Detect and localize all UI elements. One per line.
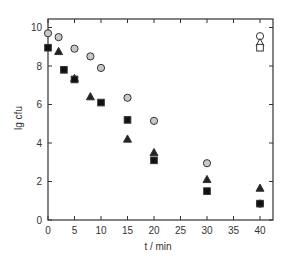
x-tick-label: 35 — [228, 225, 240, 236]
square-marker — [151, 157, 158, 164]
circle-marker — [71, 45, 78, 52]
x-axis-ticks: 0510152025303540 — [45, 19, 266, 236]
circle-marker — [124, 94, 131, 101]
y-tick-label: 0 — [36, 215, 42, 226]
y-tick-label: 2 — [36, 176, 42, 187]
plot-frame — [48, 19, 273, 220]
circle-marker — [87, 53, 94, 60]
plot-border — [48, 19, 273, 220]
square-marker — [257, 200, 264, 207]
y-tick-label: 10 — [31, 22, 43, 33]
circle-marker — [55, 34, 62, 41]
x-axis-label: t / min — [144, 241, 171, 252]
x-tick-label: 30 — [201, 225, 213, 236]
y-tick-label: 4 — [36, 138, 42, 149]
x-tick-label: 15 — [122, 225, 134, 236]
triangle-marker — [203, 175, 211, 182]
square-marker — [98, 99, 105, 106]
circle-marker — [150, 117, 157, 124]
y-tick-label: 6 — [36, 99, 42, 110]
x-tick-label: 10 — [95, 225, 107, 236]
circle-marker — [44, 30, 51, 37]
square-marker — [124, 117, 131, 124]
triangle-marker — [124, 135, 132, 142]
square-marker — [61, 67, 68, 74]
x-tick-label: 40 — [254, 225, 266, 236]
square-marker — [204, 188, 211, 195]
y-axis-label: lg cfu — [13, 106, 24, 130]
square-marker — [257, 44, 264, 51]
circle-marker — [97, 64, 104, 71]
data-points — [44, 30, 264, 208]
circle-marker — [203, 160, 210, 167]
triangle-marker — [256, 184, 264, 191]
square-marker — [45, 44, 52, 51]
x-tick-label: 0 — [45, 225, 51, 236]
chart: 0510152025303540 0246810 t / min lg cfu — [0, 0, 288, 260]
square-marker — [71, 76, 78, 83]
y-tick-label: 8 — [36, 61, 42, 72]
x-tick-label: 5 — [72, 225, 78, 236]
x-tick-label: 20 — [148, 225, 160, 236]
triangle-marker — [55, 47, 63, 54]
triangle-marker — [150, 148, 158, 155]
x-tick-label: 25 — [175, 225, 187, 236]
triangle-marker — [86, 93, 94, 100]
